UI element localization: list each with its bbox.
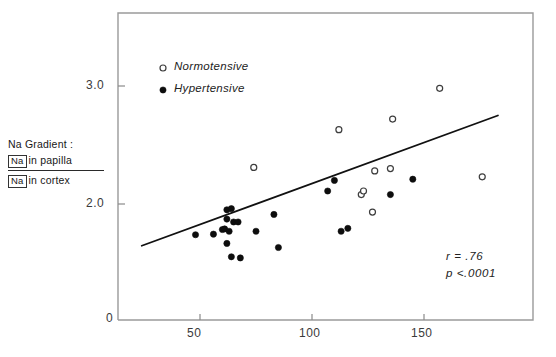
data-point-hypertensive (235, 219, 241, 225)
data-point-hypertensive (210, 231, 216, 237)
data-point-normotensive (390, 116, 396, 122)
data-point-normotensive (437, 85, 443, 91)
data-point-normotensive (369, 209, 375, 215)
data-point-hypertensive (226, 228, 232, 234)
legend-marker-hypertensive (160, 87, 166, 93)
data-point-hypertensive (387, 191, 393, 197)
data-point-hypertensive (410, 176, 416, 182)
denominator-text: in cortex (29, 174, 70, 186)
annotation-1: p <.0001 (446, 267, 496, 279)
data-point-normotensive (361, 188, 367, 194)
fraction-numerator: Nain papilla (8, 154, 104, 169)
legend-label-hypertensive: Hypertensive (174, 82, 245, 94)
x-tick-label-50: 50 (187, 326, 201, 340)
data-point-normotensive (372, 168, 378, 174)
annotation-0: r = .76 (446, 250, 483, 262)
data-point-hypertensive (253, 228, 259, 234)
scatter-plot-figure: Na Gradient : Nain papilla Nain cortex 5… (0, 0, 556, 357)
data-point-hypertensive (192, 232, 198, 238)
data-point-hypertensive (224, 216, 230, 222)
data-point-hypertensive (325, 188, 331, 194)
fraction-bar (8, 170, 104, 171)
x-tick-label-150: 150 (411, 326, 433, 340)
data-point-hypertensive (275, 244, 281, 250)
na-bracket-denominator: Na (8, 175, 27, 188)
data-point-normotensive (479, 174, 485, 180)
y-axis-label-title: Na Gradient : (8, 138, 116, 151)
data-point-normotensive (251, 164, 257, 170)
legend-label-normotensive: Normotensive (174, 60, 249, 72)
data-point-hypertensive (224, 240, 230, 246)
data-point-hypertensive (228, 206, 234, 212)
data-point-hypertensive (237, 255, 243, 261)
y-axis-label: Na Gradient : Nain papilla Nain cortex (8, 138, 116, 188)
na-bracket-numerator: Na (8, 155, 27, 168)
fraction-denominator: Nain cortex (8, 173, 104, 188)
data-point-hypertensive (271, 211, 277, 217)
legend-marker-normotensive (160, 65, 166, 71)
y-tick-label-3.0: 3.0 (86, 78, 104, 92)
data-point-hypertensive (228, 254, 234, 260)
data-point-hypertensive (345, 225, 351, 231)
data-point-normotensive (387, 166, 393, 172)
data-point-hypertensive (338, 228, 344, 234)
numerator-text: in papilla (29, 154, 72, 166)
x-tick-label-100: 100 (299, 326, 321, 340)
origin-label: 0 (106, 311, 113, 325)
y-tick-label-2.0: 2.0 (86, 196, 104, 210)
y-axis-label-fraction: Nain papilla Nain cortex (8, 154, 104, 188)
data-point-hypertensive (331, 177, 337, 183)
data-point-normotensive (336, 127, 342, 133)
